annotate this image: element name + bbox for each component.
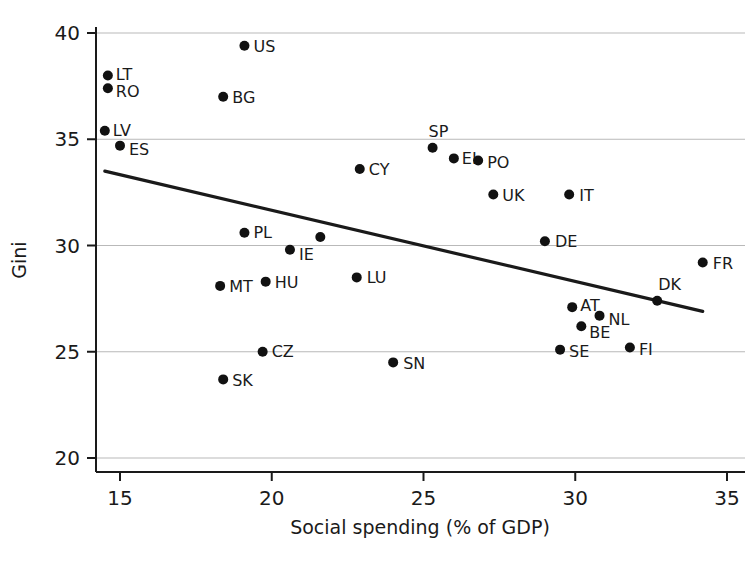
x-tick-label-35: 35 [714,486,739,510]
point-marker[interactable] [315,232,325,242]
data-point-sn[interactable]: SN [388,354,425,373]
point-marker[interactable] [103,83,113,93]
point-marker[interactable] [564,190,574,200]
x-tick-label-20: 20 [259,486,284,510]
point-label: UK [502,186,525,205]
point-marker[interactable] [698,258,708,268]
point-label: SE [569,342,589,361]
data-point-bg[interactable]: BG [218,88,255,107]
point-label: CZ [272,342,294,361]
trendline-group [105,171,703,311]
point-label: BE [589,323,610,342]
point-marker[interactable] [218,92,228,102]
x-axis-ticks-group: 1520253035 [107,472,739,510]
plot-canvas: 1520253035 2025303540 USLTROBGLVESSPELPO… [0,0,753,566]
data-point-13[interactable] [315,232,325,242]
data-point-pl[interactable]: PL [239,223,272,242]
point-marker[interactable] [285,245,295,255]
data-point-se[interactable]: SE [555,342,589,361]
data-point-ie[interactable]: IE [285,245,314,264]
point-marker[interactable] [103,71,113,81]
data-point-sk[interactable]: SK [218,371,253,390]
point-marker[interactable] [352,272,362,282]
data-point-es[interactable]: ES [115,140,149,159]
x-tick-label-15: 15 [107,486,132,510]
y-axis-ticks-group: 2025303540 [55,21,97,470]
data-point-fr[interactable]: FR [698,254,733,273]
y-tick-label-35: 35 [55,127,80,151]
point-label: ES [129,140,149,159]
point-label: IT [579,186,594,205]
point-marker[interactable] [428,143,438,153]
data-point-us[interactable]: US [239,37,275,56]
y-axis-title: Gini [8,241,30,278]
x-tick-label-30: 30 [563,486,588,510]
point-label: IE [299,245,314,264]
point-label: LU [367,268,387,287]
y-tick-label-30: 30 [55,234,80,258]
x-tick-label-25: 25 [411,486,436,510]
y-tick-label-20: 20 [55,446,80,470]
point-label: PO [487,153,509,172]
data-points-group: USLTROBGLVESSPELPOCYITUKPLDEIEFRLUHUMTDK… [100,37,733,391]
data-point-cy[interactable]: CY [355,160,390,179]
y-tick-label-40: 40 [55,21,80,45]
point-marker[interactable] [652,296,662,306]
data-point-hu[interactable]: HU [261,273,299,292]
point-label: FR [713,254,733,273]
point-marker[interactable] [555,345,565,355]
point-label: SP [429,122,449,141]
point-marker[interactable] [540,236,550,246]
point-label: US [253,37,275,56]
point-label: MT [229,277,253,296]
data-point-cz[interactable]: CZ [258,342,294,361]
data-point-mt[interactable]: MT [215,277,253,296]
point-marker[interactable] [355,164,365,174]
point-marker[interactable] [576,321,586,331]
scatter-chart-figure: 1520253035 2025303540 USLTROBGLVESSPELPO… [0,0,753,566]
data-point-lu[interactable]: LU [352,268,387,287]
point-marker[interactable] [115,141,125,151]
point-label: NL [609,310,630,329]
data-point-dk[interactable]: DK [652,275,681,306]
point-marker[interactable] [567,302,577,312]
point-marker[interactable] [261,277,271,287]
point-label: SK [232,371,253,390]
point-label: LV [113,121,131,140]
point-label: DE [555,232,577,251]
data-point-de[interactable]: DE [540,232,577,251]
point-label: DK [658,275,681,294]
point-label: HU [275,273,299,292]
axes-group [96,27,745,472]
data-point-fi[interactable]: FI [625,340,653,359]
point-marker[interactable] [388,357,398,367]
point-marker[interactable] [473,156,483,166]
point-label: SN [403,354,425,373]
point-marker[interactable] [625,343,635,353]
point-marker[interactable] [100,126,110,136]
point-label: LT [116,65,133,84]
point-marker[interactable] [239,228,249,238]
point-label: CY [369,160,390,179]
point-label: BG [232,88,255,107]
data-point-it[interactable]: IT [564,186,594,205]
data-point-lv[interactable]: LV [100,121,131,140]
point-marker[interactable] [449,153,459,163]
data-point-uk[interactable]: UK [488,186,525,205]
data-point-lt[interactable]: LT [103,65,133,84]
point-marker[interactable] [215,281,225,291]
point-marker[interactable] [258,347,268,357]
data-point-ro[interactable]: RO [103,82,140,101]
data-point-be[interactable]: BE [576,321,610,342]
regression-trendline [105,171,703,311]
point-label: PL [253,223,272,242]
data-point-at[interactable]: AT [567,296,600,315]
point-marker[interactable] [595,311,605,321]
point-label: RO [116,82,140,101]
point-marker[interactable] [218,374,228,384]
x-axis-title: Social spending (% of GDP) [290,516,550,538]
y-tick-label-25: 25 [55,340,80,364]
point-marker[interactable] [488,190,498,200]
point-marker[interactable] [239,41,249,51]
data-point-sp[interactable]: SP [428,122,449,153]
